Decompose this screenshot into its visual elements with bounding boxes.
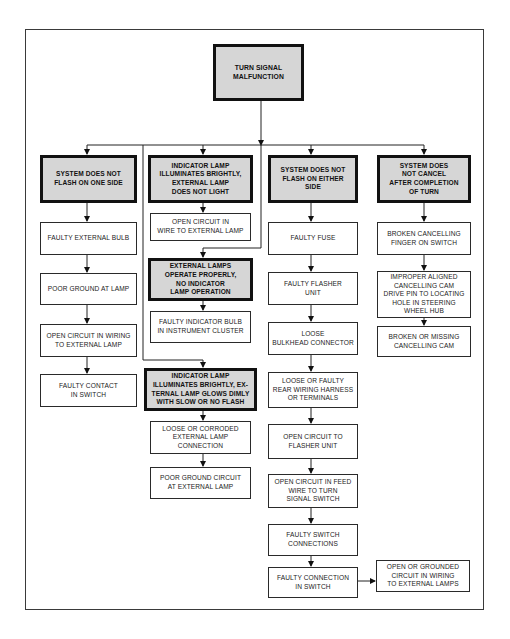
- cause-open-circuit-flasher-unit: OPEN CIRCUIT TO FLASHER UNIT: [268, 424, 358, 459]
- cause-faulty-contact-in-switch: FAULTY CONTACT IN SWITCH: [40, 374, 137, 407]
- cause-open-circuit-wire-external-lamp: OPEN CIRCUIT IN WIRE TO EXTERNAL LAMP: [150, 213, 251, 241]
- cause-loose-bulkhead-connector: LOOSE BULKHEAD CONNECTOR: [268, 322, 358, 355]
- symptom-external-ok-no-indicator: EXTERNAL LAMPS OPERATE PROPERLY, NO INDI…: [148, 258, 253, 301]
- cause-improper-aligned-cam-pin: IMPROPER ALIGNED CANCELLING CAM DRIVE PI…: [377, 271, 471, 318]
- cause-faulty-indicator-bulb: FAULTY INDICATOR BULB IN INSTRUMENT CLUS…: [150, 311, 251, 343]
- cause-faulty-fuse: FAULTY FUSE: [268, 222, 358, 255]
- root-node-turn-signal-malfunction: TURN SIGNAL MALFUNCTION: [213, 44, 304, 101]
- cause-faulty-external-bulb: FAULTY EXTERNAL BULB: [40, 222, 137, 255]
- cause-loose-corroded-connection: LOOSE OR CORRODED EXTERNAL LAMP CONNECTI…: [150, 421, 251, 454]
- cause-faulty-flasher-unit: FAULTY FLASHER UNIT: [268, 272, 358, 305]
- cause-poor-ground-at-lamp: POOR GROUND AT LAMP: [40, 273, 137, 305]
- symptom-does-not-cancel: SYSTEM DOES NOT CANCEL AFTER COMPLETION …: [377, 155, 471, 203]
- cause-broken-cancelling-finger: BROKEN CANCELLING FINGER ON SWITCH: [377, 222, 471, 255]
- cause-faulty-connection-in-switch: FAULTY CONNECTION IN SWITCH: [268, 567, 358, 598]
- cause-faulty-switch-connections: FAULTY SWITCH CONNECTIONS: [268, 524, 358, 556]
- cause-open-grounded-circuit-external-lamps: OPEN OR GROUNDED CIRCUIT IN WIRING TO EX…: [376, 560, 470, 592]
- symptom-indicator-bright-external-dim: INDICATOR LAMP ILLUMINATES BRIGHTLY, EX-…: [144, 368, 257, 411]
- cause-broken-missing-cancelling-cam: BROKEN OR MISSING CANCELLING CAM: [377, 326, 471, 357]
- cause-rear-wiring-harness: LOOSE OR FAULTY REAR WIRING HARNESS OR T…: [268, 372, 358, 408]
- diagram-frame: [25, 29, 484, 610]
- symptom-no-flash-one-side: SYSTEM DOES NOT FLASH ON ONE SIDE: [40, 155, 137, 203]
- cause-open-circuit-wiring-external-lamp: OPEN CIRCUIT IN WIRING TO EXTERNAL LAMP: [40, 324, 137, 357]
- symptom-no-flash-either-side: SYSTEM DOES NOT FLASH ON EITHER SIDE: [268, 155, 358, 203]
- cause-poor-ground-external-lamp: POOR GROUND CIRCUIT AT EXTERNAL LAMP: [150, 467, 251, 499]
- symptom-indicator-bright-external-not-light: INDICATOR LAMP ILLUMINATES BRIGHTLY, EXT…: [148, 155, 253, 203]
- cause-open-circuit-feed-wire: OPEN CIRCUIT IN FEED WIRE TO TURN SIGNAL…: [268, 474, 358, 508]
